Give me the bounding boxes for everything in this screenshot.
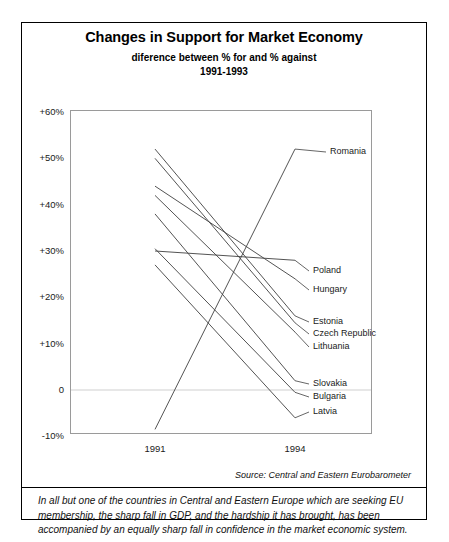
source-caption: Source: Central and Eastern Eurobaromete… — [0, 470, 411, 480]
document-page: Changes in Support for Market Economy di… — [0, 0, 449, 542]
y-axis-tick-label: +10% — [18, 338, 64, 349]
series-label-lithuania: Lithuania — [313, 341, 350, 351]
y-axis-tick-label: +40% — [18, 199, 64, 210]
chart-lines-svg — [0, 0, 449, 542]
series-label-slovakia: Slovakia — [313, 378, 347, 388]
series-line — [155, 195, 295, 332]
plot-area: +60%+50%+40%+30%+20%+10%0-10% 19911994 R… — [0, 0, 449, 542]
series-leader-line — [295, 316, 309, 322]
y-axis-tick-label: -10% — [18, 430, 64, 441]
series-line — [155, 249, 295, 393]
series-label-hungary: Hungary — [313, 284, 347, 294]
series-line — [155, 214, 295, 381]
y-axis-tick-label: +30% — [18, 245, 64, 256]
series-label-romania: Romania — [330, 146, 366, 156]
series-label-latvia: Latvia — [313, 406, 337, 416]
series-line — [155, 265, 295, 418]
series-line — [155, 149, 295, 429]
footer-divider — [22, 487, 426, 488]
x-axis-tick-label: 1994 — [265, 443, 325, 454]
y-axis-tick-label: +50% — [18, 152, 64, 163]
x-axis-tick-label: 1991 — [125, 443, 185, 454]
y-axis-tick-label: +20% — [18, 291, 64, 302]
y-axis-tick-label: +60% — [18, 106, 64, 117]
series-line — [155, 149, 295, 316]
series-leader-line — [295, 332, 309, 347]
series-leader-line — [295, 279, 309, 290]
series-label-estonia: Estonia — [313, 316, 343, 326]
footer-note: In all but one of the countries in Centr… — [38, 494, 408, 538]
series-line — [155, 251, 295, 260]
series-leader-line — [295, 392, 309, 397]
series-leader-line — [295, 149, 326, 152]
series-leader-line — [295, 260, 309, 271]
series-line — [155, 158, 295, 322]
series-label-poland: Poland — [313, 265, 341, 275]
y-axis-tick-label: 0 — [18, 384, 64, 395]
series-leader-line — [295, 412, 309, 418]
series-leader-line — [295, 381, 309, 384]
series-label-czech-republic: Czech Republic — [313, 328, 376, 338]
series-leader-line — [295, 323, 309, 334]
series-label-bulgaria: Bulgaria — [313, 391, 346, 401]
